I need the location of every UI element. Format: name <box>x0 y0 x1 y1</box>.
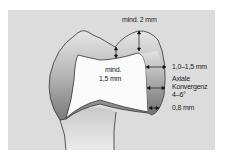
label-margin-width: 0,8 mm <box>172 104 194 112</box>
label-convergence-2: Konvergenz <box>172 83 207 91</box>
label-occlusal-minimum: mind. 2 mm <box>122 16 157 24</box>
label-convergence-1: Axiale <box>172 75 190 83</box>
label-axial-thickness: 1,0–1,5 mm <box>172 63 207 71</box>
label-core-minimum-2: 1,5 mm <box>99 75 121 83</box>
preparation-core <box>66 53 148 118</box>
label-core-minimum-1: mind. <box>105 66 121 74</box>
label-convergence-3: 4–6° <box>172 91 186 99</box>
